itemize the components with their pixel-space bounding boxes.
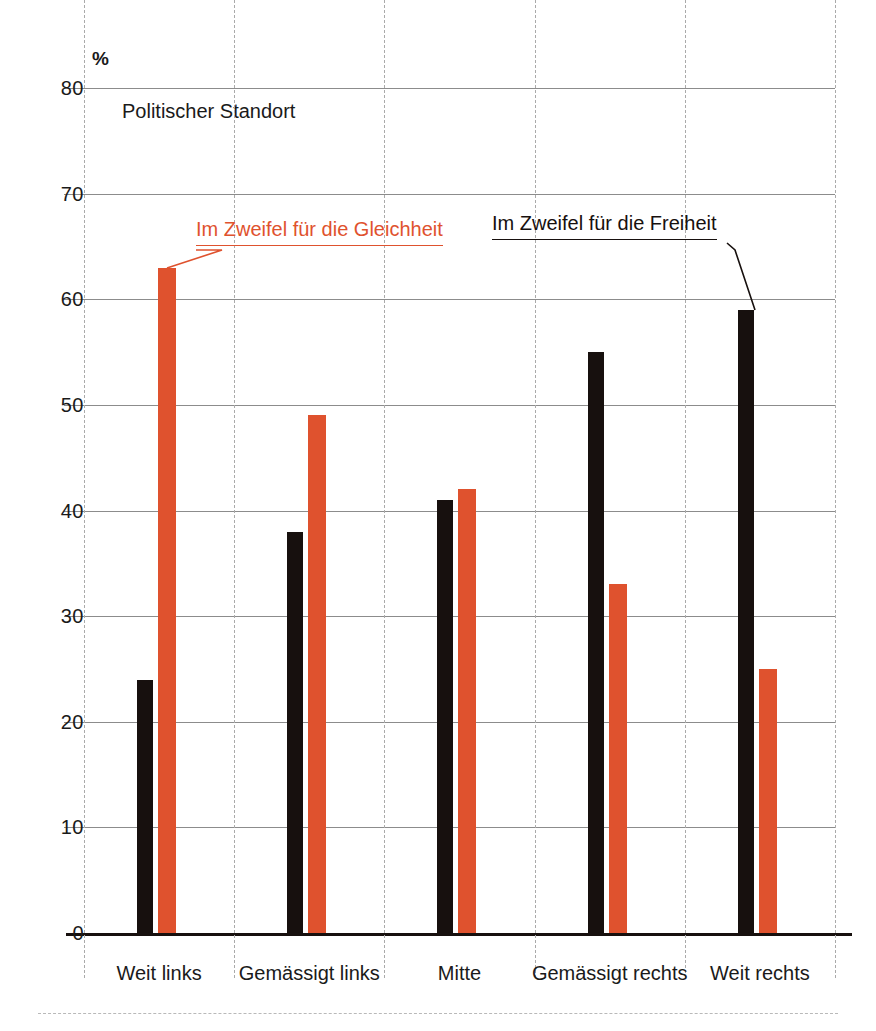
callout-equality-label: Im Zweifel für die Gleichheit [196, 218, 443, 241]
callout-freedom: Im Zweifel für die Freiheit [492, 212, 717, 240]
bar-im-zweifel-fur-die-gleichheit-weit-links [158, 268, 176, 933]
plot-area [84, 88, 835, 933]
y-axis-tick-label: 50 [38, 393, 84, 416]
x-axis-label-gemassigt-links: Gemässigt links [239, 962, 380, 985]
category-separator [835, 0, 836, 978]
bar-im-zweifel-fur-die-gleichheit-gemassigt-rechts [609, 584, 627, 933]
gridline [84, 299, 835, 300]
bar-chart: % Politischer Standort Weit linksGemässi… [0, 0, 876, 1031]
x-axis-label-weit-links: Weit links [116, 962, 201, 985]
bar-im-zweifel-fur-die-freiheit-weit-rechts [738, 310, 754, 933]
footer-divider [38, 1013, 838, 1014]
category-separator [535, 0, 536, 978]
category-separator [234, 0, 235, 978]
bar-im-zweifel-fur-die-freiheit-gemassigt-rechts [588, 352, 604, 933]
callout-equality: Im Zweifel für die Gleichheit [196, 218, 443, 246]
category-separator [685, 0, 686, 978]
x-axis-label-gemassigt-rechts: Gemässigt rechts [532, 962, 688, 985]
gridline [84, 194, 835, 195]
y-axis-tick-label: 0 [38, 922, 84, 945]
y-axis-tick-label: 30 [38, 605, 84, 628]
y-axis-unit-label: % [92, 48, 109, 70]
category-separator [384, 0, 385, 978]
bar-im-zweifel-fur-die-freiheit-weit-links [137, 680, 153, 934]
category-separator [84, 0, 85, 978]
callout-freedom-label: Im Zweifel für die Freiheit [492, 212, 717, 235]
x-axis-label-mitte: Mitte [438, 962, 481, 985]
bar-im-zweifel-fur-die-gleichheit-weit-rechts [759, 669, 777, 933]
y-axis-tick-label: 80 [38, 77, 84, 100]
y-axis-tick-label: 70 [38, 182, 84, 205]
gridline [84, 88, 835, 89]
y-axis-tick-label: 40 [38, 499, 84, 522]
bar-im-zweifel-fur-die-gleichheit-gemassigt-links [308, 415, 326, 933]
axis-baseline [66, 933, 852, 936]
y-axis-tick-label: 10 [38, 816, 84, 839]
bar-im-zweifel-fur-die-gleichheit-mitte [458, 489, 476, 933]
x-axis-label-weit-rechts: Weit rechts [710, 962, 810, 985]
y-axis-tick-label: 60 [38, 288, 84, 311]
y-axis-tick-label: 20 [38, 710, 84, 733]
gridline [84, 405, 835, 406]
bar-im-zweifel-fur-die-freiheit-mitte [437, 500, 453, 933]
bar-im-zweifel-fur-die-freiheit-gemassigt-links [287, 532, 303, 933]
